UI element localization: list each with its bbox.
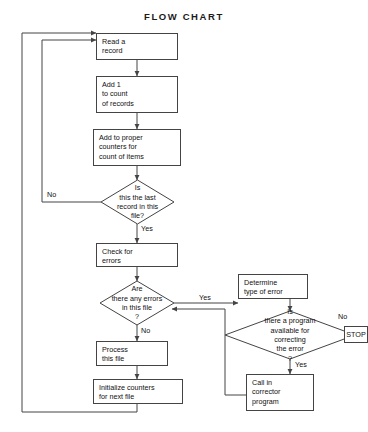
node-check-for-errors: Check for errors: [96, 243, 178, 267]
node-text-line: program: [252, 397, 313, 406]
node-text-line: Check for: [102, 247, 177, 256]
node-are-there-any-errors: Are there any errors in this file ?: [100, 281, 174, 325]
node-is-program-available: Is there a program available for correct…: [225, 311, 355, 359]
edge-label-last-record-no: No: [47, 190, 56, 199]
node-determine-type-of-error: Determine type of error: [238, 274, 308, 299]
flowchart-canvas: FLOW CHART: [0, 0, 368, 432]
node-process-this-file: Process this file: [96, 341, 168, 366]
node-text-line: type of error: [244, 287, 307, 296]
node-text-line: Initialize counters: [99, 383, 182, 392]
node-add-one-to-count: Add 1 to count of records: [96, 76, 178, 113]
node-initialize-counters: Initialize counters for next file: [93, 379, 183, 404]
node-text-line: count of items: [99, 152, 180, 161]
connector-lines: [0, 0, 368, 432]
node-text-line: Add 1: [102, 80, 177, 89]
node-is-last-record: Is this the last record in this file?: [101, 180, 174, 224]
node-text-line: Add to proper: [99, 133, 180, 142]
edge-label-program-yes: Yes: [295, 360, 307, 369]
edge-label-any-errors-yes: Yes: [199, 293, 211, 302]
node-text-line: counters for: [99, 142, 180, 151]
node-text-line: corrector: [252, 387, 313, 396]
edge-label-any-errors-no: No: [141, 326, 150, 335]
node-text-line: for next file: [99, 392, 182, 401]
node-add-to-proper-counters: Add to proper counters for count of item…: [93, 129, 181, 166]
node-call-in-corrector-program: Call in corrector program: [246, 374, 314, 411]
node-stop: STOP: [344, 326, 368, 343]
node-text-line: Determine: [244, 278, 307, 287]
edge-label-last-record-yes: Yes: [141, 224, 153, 233]
node-text-line: Read a: [102, 37, 177, 46]
node-text-line: Call in: [252, 378, 313, 387]
node-text-line: record: [102, 46, 177, 55]
node-text-line: this file: [102, 354, 167, 363]
node-text-line: to count: [102, 89, 177, 98]
node-text-line: errors: [102, 256, 177, 265]
node-text-line: of records: [102, 99, 177, 108]
node-text-line: Process: [102, 345, 167, 354]
node-text-line: STOP: [346, 330, 365, 339]
edge-label-program-no: No: [338, 312, 347, 321]
node-read-record: Read a record: [96, 33, 178, 60]
